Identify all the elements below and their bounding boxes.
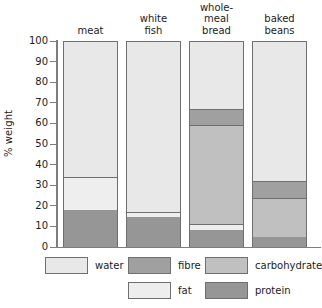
bar-segment-water	[127, 41, 180, 212]
y-axis-tick	[50, 102, 56, 103]
y-axis-tick-label: 0	[20, 242, 48, 252]
category-label-line: meat	[56, 25, 126, 37]
legend-swatch-fat	[128, 282, 171, 299]
bar-segment-fibre	[253, 181, 306, 197]
y-axis-tick	[50, 82, 56, 83]
category-label: whole-mealbread	[182, 2, 252, 37]
y-axis-tick-label: 70	[20, 98, 48, 108]
legend-item-fat: fat	[128, 282, 192, 299]
y-axis-tick-label: 90	[20, 57, 48, 67]
y-axis-title: % weight	[3, 99, 14, 169]
y-axis-tick-label: 20	[20, 201, 48, 211]
bar-segment-protein	[64, 210, 117, 247]
legend-item-water: water	[45, 257, 124, 274]
y-axis-tick-label: 80	[20, 77, 48, 87]
legend-item-fibre: fibre	[128, 257, 201, 274]
bar	[63, 41, 118, 247]
y-axis-tick	[50, 185, 56, 186]
bar	[189, 41, 244, 247]
bar-segment-water	[253, 41, 306, 181]
bar-segment-carbohydrate	[253, 198, 306, 237]
y-axis-tick-label: 10	[20, 221, 48, 231]
bar	[252, 41, 307, 247]
y-axis-tick	[50, 164, 56, 165]
legend-swatch-water	[45, 257, 88, 274]
bar-segment-carbohydrate	[190, 125, 243, 224]
legend-label: water	[95, 260, 124, 271]
bar-segment-fibre	[190, 109, 243, 125]
y-axis-tick	[50, 41, 56, 42]
bar-segment-fat	[64, 177, 117, 210]
bar-segment-water	[64, 41, 117, 177]
bar-segment-protein	[253, 237, 306, 247]
y-axis-tick	[50, 247, 56, 248]
bar-segment-protein	[127, 217, 180, 247]
category-label-line: meal	[182, 13, 252, 25]
y-axis-tick	[50, 226, 56, 227]
bar	[126, 41, 181, 247]
category-label-line: bread	[182, 25, 252, 37]
legend-item-carbohydrate: carbohydrate	[205, 257, 322, 274]
legend: waterfibrecarbohydratefatprotein	[0, 255, 322, 307]
category-label: meat	[56, 25, 126, 37]
legend-label: fat	[178, 285, 192, 296]
y-axis-tick-label: 60	[20, 118, 48, 128]
category-label: bakedbeans	[245, 13, 315, 36]
y-axis-tick	[50, 123, 56, 124]
legend-swatch-fibre	[128, 257, 171, 274]
bar-segment-protein	[190, 230, 243, 248]
legend-label: protein	[255, 285, 291, 296]
y-axis-line	[56, 40, 58, 248]
legend-item-protein: protein	[205, 282, 291, 299]
legend-label: carbohydrate	[255, 260, 322, 271]
y-axis-tick	[50, 61, 56, 62]
category-label-line: whole-	[182, 2, 252, 14]
y-axis-tick	[50, 205, 56, 206]
legend-swatch-carbohydrate	[205, 257, 248, 274]
category-label-line: beans	[245, 25, 315, 37]
category-label: whitefish	[119, 13, 189, 36]
bar-segment-water	[190, 41, 243, 109]
category-label-line: fish	[119, 25, 189, 37]
legend-label: fibre	[178, 260, 201, 271]
stacked-bar-chart: % weight 1009080706050403020100 meatwhit…	[0, 0, 322, 308]
category-label-line: baked	[245, 13, 315, 25]
y-axis-tick	[50, 144, 56, 145]
y-axis-tick-label: 40	[20, 160, 48, 170]
y-axis-tick-label: 50	[20, 139, 48, 149]
y-axis-tick-label: 100	[20, 36, 48, 46]
legend-swatch-protein	[205, 282, 248, 299]
y-axis-tick-label: 30	[20, 180, 48, 190]
category-label-line: white	[119, 13, 189, 25]
